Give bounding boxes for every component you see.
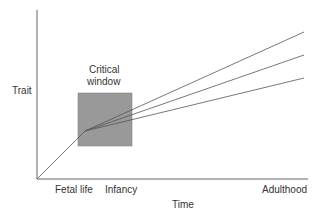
critical-label-1: Critical — [89, 64, 120, 75]
x-axis-label: Time — [172, 199, 194, 210]
tick-adulthood: Adulthood — [262, 184, 307, 195]
critical-label-2: window — [87, 76, 120, 87]
y-axis-label: Trait — [12, 85, 32, 96]
baseline-trajectory — [37, 131, 85, 179]
tick-infancy: Infancy — [105, 184, 137, 195]
critical-window-box — [78, 93, 132, 146]
tick-fetal-life: Fetal life — [55, 184, 93, 195]
